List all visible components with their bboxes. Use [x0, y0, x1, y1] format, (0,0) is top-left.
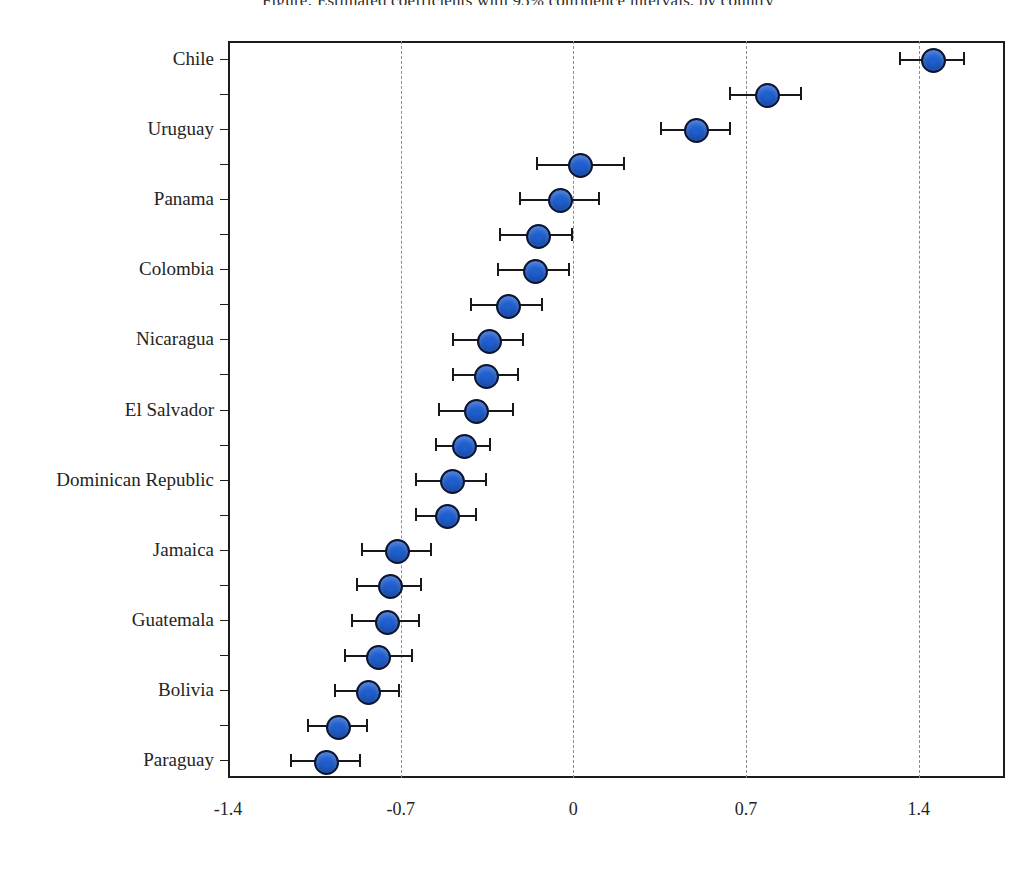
y-axis-label: Panama	[0, 189, 214, 208]
y-axis-label: Uruguay	[0, 119, 214, 138]
y-axis-label: El Salvador	[0, 400, 214, 419]
y-axis-label: Dominican Republic	[0, 470, 214, 489]
y-axis-label: Colombia	[0, 259, 214, 278]
chart-title: Figure: Estimated coefficients with 95% …	[0, 0, 1036, 5]
x-axis-label: 0.7	[735, 799, 758, 820]
y-axis-label: Nicaragua	[0, 329, 214, 348]
x-axis-label: -0.7	[386, 799, 415, 820]
y-axis-label: Guatemala	[0, 610, 214, 629]
y-axis-label: Bolivia	[0, 680, 214, 699]
chart-canvas: Figure: Estimated coefficients with 95% …	[0, 0, 1036, 869]
x-axis-label: 1.4	[907, 799, 930, 820]
x-axis-labels: -1.4-0.700.71.4	[228, 799, 1005, 829]
y-axis-label: Paraguay	[0, 750, 214, 769]
y-axis-label: Jamaica	[0, 540, 214, 559]
y-axis-label: Chile	[0, 49, 214, 68]
x-axis-label: 0	[569, 799, 578, 820]
x-axis-label: -1.4	[214, 799, 243, 820]
y-axis-labels: ChileUruguayPanamaColombiaNicaraguaEl Sa…	[0, 41, 1036, 778]
